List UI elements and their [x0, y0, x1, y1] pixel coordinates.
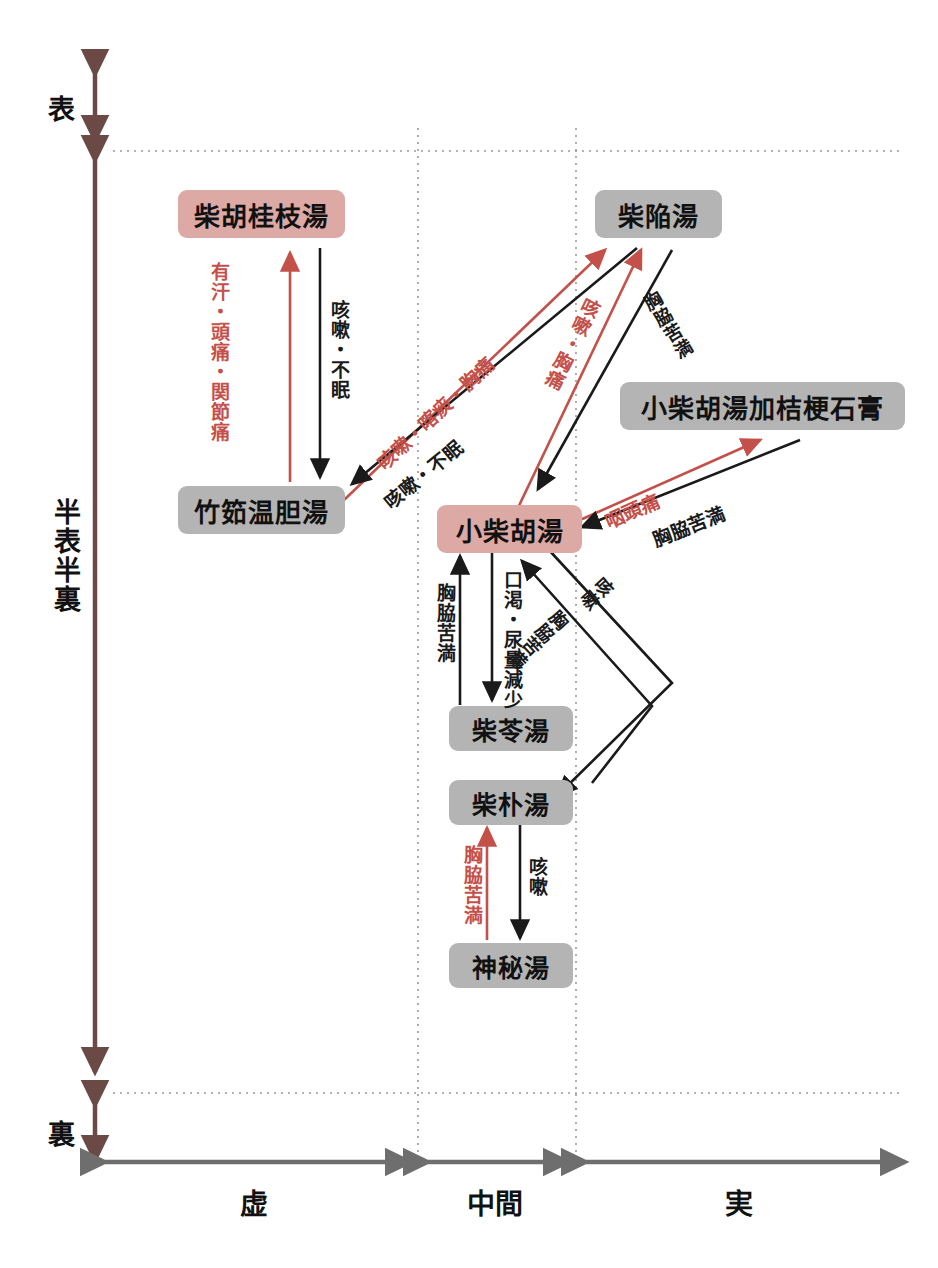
y-axis-label-hyo: 表 [48, 88, 75, 127]
edge-label-e13: 胸脇苦満 [459, 845, 486, 925]
y-axis-label-ri: 裏 [48, 1113, 75, 1152]
node-chikujo-untan-to[interactable]: 竹筎温胆湯 [178, 486, 345, 534]
node-saiko-keishi-to[interactable]: 柴胡桂枝湯 [178, 190, 345, 238]
edge-layer [290, 248, 800, 940]
node-saikan-to[interactable]: 柴陥湯 [595, 190, 722, 238]
node-saiboku-to[interactable]: 柴朴湯 [449, 780, 573, 825]
edge-e5 [516, 250, 641, 512]
y-axis-label-hanpyo-hanri: 半表半裏 [46, 498, 85, 614]
diagram-vector-layer [0, 0, 938, 1268]
edge-label-e1: 有汗・頭痛・関節痛 [206, 262, 233, 442]
x-axis-label-kyo: 虚 [240, 1182, 268, 1222]
edge-label-e10: 胸脇苦満 [432, 583, 459, 663]
diagram-canvas: 柴胡桂枝湯 柴陥湯 竹筎温胆湯 小柴胡湯加桔梗石膏 小柴胡湯 柴苓湯 柴朴湯 神… [0, 0, 938, 1268]
edge-label-e14: 咳嗽 [524, 857, 551, 897]
x-axis-label-chukan: 中間 [467, 1182, 523, 1222]
node-shosaiko-to-ka-kikyo-sekko[interactable]: 小柴胡湯加桔梗石膏 [620, 382, 905, 430]
node-shosaiko-to[interactable]: 小柴胡湯 [437, 505, 582, 553]
node-shinpi-to[interactable]: 神秘湯 [449, 943, 573, 988]
node-sairei-to[interactable]: 柴苓湯 [449, 706, 573, 751]
edge-label-e2: 咳嗽・不眠 [326, 300, 353, 400]
x-axis-label-jitsu: 実 [725, 1182, 753, 1222]
